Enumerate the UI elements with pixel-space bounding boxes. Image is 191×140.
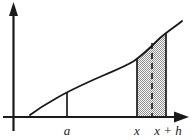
axis-label-x-plus-h: x + h [153,123,182,138]
diagram-canvas: a x x + h [0,0,191,140]
integral-strip-diagram: a x x + h [0,0,191,140]
right-arrowhead-icon [174,112,189,123]
up-arrowhead-icon [9,2,18,16]
axis-label-x: x [133,123,140,138]
axis-label-a: a [64,123,71,138]
